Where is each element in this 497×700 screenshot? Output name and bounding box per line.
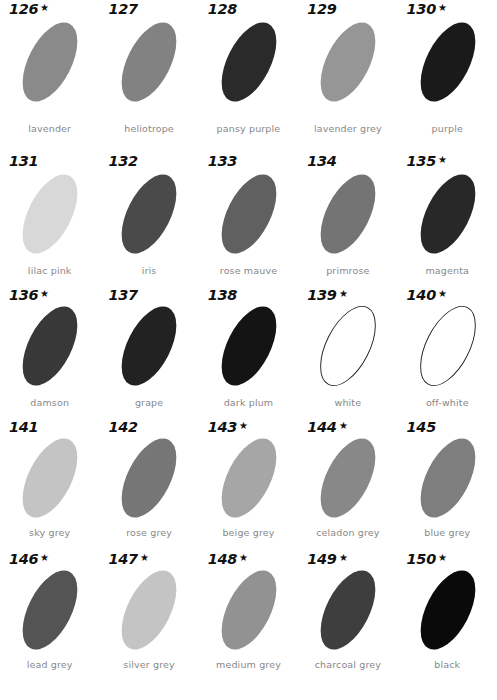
ellipse-shape: [11, 166, 88, 262]
colour-swatch-ellipse: [298, 14, 397, 110]
swatch-cell: 144★celadon grey: [298, 416, 397, 546]
swatch-caption: lilac pink: [0, 266, 99, 276]
colour-swatch-ellipse: [99, 166, 198, 262]
swatch-number: 148: [208, 552, 237, 567]
swatch-header: 132★: [108, 154, 137, 169]
swatch-number: 150: [407, 552, 436, 567]
ellipse-shape: [210, 562, 287, 658]
swatch-caption: lavender grey: [298, 124, 397, 134]
colour-swatch-grid: 126★lavender127★heliotrope128★pansy purp…: [0, 0, 497, 700]
swatch-header: 146★: [9, 552, 49, 567]
swatch-cell: 147★silver grey: [99, 546, 198, 696]
ellipse-shape: [111, 298, 188, 394]
swatch-number: 141: [9, 420, 38, 435]
swatch-header: 127★: [108, 2, 137, 17]
colour-swatch-ellipse: [298, 166, 397, 262]
colour-swatch-ellipse: [99, 562, 198, 658]
ellipse-shape: [111, 14, 188, 110]
swatch-caption: beige grey: [199, 528, 298, 538]
swatch-caption: black: [398, 660, 497, 670]
colour-swatch-ellipse: [99, 298, 198, 394]
swatch-cell: 135★magenta: [398, 146, 497, 286]
swatch-header: 142★: [108, 420, 137, 435]
swatch-cell: 146★lead grey: [0, 546, 99, 696]
swatch-cell: 143★beige grey: [199, 416, 298, 546]
swatch-caption: damson: [0, 398, 99, 408]
colour-swatch-ellipse: [199, 298, 298, 394]
ellipse-shape: [210, 166, 287, 262]
swatch-cell: 137★grape: [99, 286, 198, 416]
swatch-cell: 128★pansy purple: [199, 0, 298, 146]
swatch-number: 128: [208, 2, 237, 17]
colour-swatch-ellipse: [199, 166, 298, 262]
swatch-number: 146: [9, 552, 38, 567]
swatch-header: 129★: [307, 2, 336, 17]
colour-swatch-ellipse: [398, 14, 497, 110]
swatch-caption: dark plum: [199, 398, 298, 408]
ellipse-shape: [409, 430, 486, 526]
swatch-number: 132: [108, 154, 137, 169]
swatch-header: 133★: [208, 154, 237, 169]
swatch-number: 136: [9, 288, 38, 303]
ellipse-shape: [409, 562, 486, 658]
swatch-number: 130: [407, 2, 436, 17]
colour-swatch-ellipse: [398, 166, 497, 262]
ellipse-shape: [309, 430, 386, 526]
swatch-header: 137★: [108, 288, 137, 303]
swatch-caption: magenta: [398, 266, 497, 276]
star-icon: ★: [40, 553, 49, 563]
ellipse-shape: [309, 298, 386, 394]
colour-swatch-ellipse: [99, 14, 198, 110]
ellipse-shape: [111, 430, 188, 526]
swatch-cell: 145★blue grey: [398, 416, 497, 546]
swatch-caption: primrose: [298, 266, 397, 276]
swatch-cell: 150★black: [398, 546, 497, 696]
swatch-caption: charcoal grey: [298, 660, 397, 670]
swatch-cell: 134★primrose: [298, 146, 397, 286]
ellipse-shape: [210, 14, 287, 110]
star-icon: ★: [40, 3, 49, 13]
star-icon: ★: [339, 553, 348, 563]
swatch-header: 135★: [407, 154, 447, 169]
swatch-caption: white: [298, 398, 397, 408]
swatch-header: 150★: [407, 552, 447, 567]
swatch-number: 149: [307, 552, 336, 567]
swatch-header: 131★: [9, 154, 38, 169]
swatch-number: 143: [208, 420, 237, 435]
ellipse-shape: [111, 562, 188, 658]
swatch-cell: 129★lavender grey: [298, 0, 397, 146]
ellipse-shape: [210, 298, 287, 394]
colour-swatch-ellipse: [298, 430, 397, 526]
swatch-header: 126★: [9, 2, 49, 17]
swatch-cell: 133★rose mauve: [199, 146, 298, 286]
swatch-header: 130★: [407, 2, 447, 17]
star-icon: ★: [339, 289, 348, 299]
ellipse-shape: [409, 298, 486, 394]
swatch-header: 147★: [108, 552, 148, 567]
swatch-cell: 148★medium grey: [199, 546, 298, 696]
swatch-number: 127: [108, 2, 137, 17]
swatch-header: 143★: [208, 420, 248, 435]
colour-swatch-ellipse: [398, 562, 497, 658]
ellipse-shape: [111, 166, 188, 262]
colour-swatch-ellipse: [298, 562, 397, 658]
swatch-cell: 138★dark plum: [199, 286, 298, 416]
ellipse-shape: [210, 430, 287, 526]
colour-swatch-ellipse: [0, 562, 99, 658]
colour-swatch-ellipse: [298, 298, 397, 394]
colour-swatch-ellipse: [398, 298, 497, 394]
ellipse-shape: [309, 166, 386, 262]
ellipse-shape: [409, 14, 486, 110]
swatch-caption: blue grey: [398, 528, 497, 538]
colour-swatch-ellipse: [0, 430, 99, 526]
swatch-caption: lead grey: [0, 660, 99, 670]
swatch-cell: 139★white: [298, 286, 397, 416]
swatch-caption: sky grey: [0, 528, 99, 538]
swatch-cell: 131★lilac pink: [0, 146, 99, 286]
swatch-header: 141★: [9, 420, 38, 435]
swatch-header: 148★: [208, 552, 248, 567]
swatch-cell: 130★purple: [398, 0, 497, 146]
colour-swatch-ellipse: [199, 562, 298, 658]
star-icon: ★: [438, 3, 447, 13]
swatch-caption: iris: [99, 266, 198, 276]
